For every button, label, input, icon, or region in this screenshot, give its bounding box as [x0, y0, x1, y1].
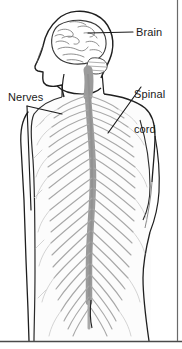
- label-spinal-cord-line1: Spinal: [134, 89, 165, 101]
- label-nerves: Nerves: [8, 92, 43, 104]
- label-spinal-cord: Spinal cord: [134, 66, 165, 147]
- label-brain: Brain: [136, 27, 162, 39]
- nervous-system-diagram: [0, 0, 182, 349]
- label-spinal-cord-line2: cord: [134, 124, 165, 136]
